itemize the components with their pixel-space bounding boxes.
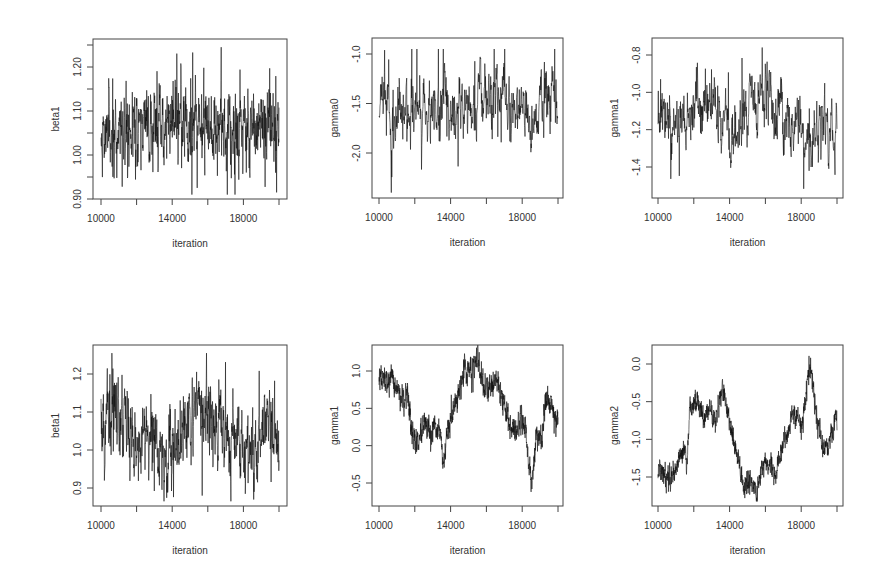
- y-tick-label: 0.5: [351, 401, 362, 415]
- y-tick-label: -1.5: [351, 94, 362, 112]
- trace-panel-top-right: 100001400018000-1.4-1.2-1.0-0.8iteration…: [609, 38, 843, 248]
- x-axis-label: iteration: [730, 545, 766, 556]
- trace-line: [101, 353, 279, 501]
- y-tick-label: -1.0: [351, 45, 362, 63]
- trace-panel-bottom-middle: 100001400018000-0.50.00.51.0iterationgam…: [329, 343, 563, 557]
- x-tick-label: 10000: [644, 520, 672, 531]
- y-axis-label: gamma1: [609, 98, 620, 137]
- x-axis-label: iteration: [730, 237, 766, 248]
- y-tick-label: 1.20: [72, 57, 83, 77]
- y-tick-label: -1.2: [631, 121, 642, 139]
- x-tick-label: 10000: [87, 520, 115, 531]
- y-tick-label: -0.5: [631, 393, 642, 411]
- y-tick-label: -0.8: [631, 46, 642, 64]
- y-tick-label: 1.0: [72, 443, 83, 457]
- y-tick-label: 0.9: [72, 481, 83, 495]
- trace-panel-top-left: 1000014000180000.901.001.101.20iteration…: [50, 39, 287, 249]
- x-axis-label: iteration: [450, 237, 486, 248]
- x-tick-label: 14000: [437, 520, 465, 531]
- x-tick-label: 14000: [716, 212, 744, 223]
- x-tick-label: 18000: [787, 212, 815, 223]
- x-tick-label: 10000: [365, 212, 393, 223]
- y-tick-label: -1.0: [631, 83, 642, 101]
- y-tick-label: -2.0: [351, 144, 362, 162]
- x-tick-label: 14000: [716, 520, 744, 531]
- y-tick-label: -1.0: [631, 430, 642, 448]
- x-axis-label: iteration: [172, 238, 208, 249]
- y-axis-label: beta1: [50, 413, 61, 438]
- x-axis-label: iteration: [172, 545, 208, 556]
- y-tick-label: 0.0: [351, 438, 362, 452]
- y-tick-label: 1.10: [72, 101, 83, 121]
- y-tick-label: -0.5: [351, 474, 362, 492]
- x-tick-label: 14000: [158, 520, 186, 531]
- x-tick-label: 10000: [365, 520, 393, 531]
- x-tick-label: 10000: [644, 212, 672, 223]
- trace-line: [101, 47, 279, 194]
- trace-panel-bottom-left: 1000014000180000.91.01.11.2iterationbeta…: [50, 345, 287, 556]
- y-tick-label: 0.90: [72, 189, 83, 209]
- trace-line: [658, 356, 837, 502]
- y-tick-label: 1.0: [351, 364, 362, 378]
- y-axis-label: beta1: [50, 106, 61, 131]
- y-tick-label: 1.00: [72, 145, 83, 165]
- x-tick-label: 18000: [508, 520, 536, 531]
- y-axis-label: gamma0: [329, 98, 340, 137]
- x-tick-label: 14000: [437, 212, 465, 223]
- x-tick-label: 18000: [508, 212, 536, 223]
- y-axis-label: gamma1: [329, 406, 340, 445]
- x-tick-label: 18000: [229, 213, 257, 224]
- trace-line: [379, 49, 558, 193]
- trace-panel-bottom-right: 100001400018000-1.5-1.0-0.50.0iterationg…: [609, 345, 843, 556]
- trace-panel-top-middle: 100001400018000-2.0-1.5-1.0iterationgamm…: [329, 38, 563, 248]
- y-axis-label: gamma2: [609, 406, 620, 445]
- x-axis-label: iteration: [450, 545, 486, 556]
- x-tick-label: 10000: [87, 213, 115, 224]
- x-tick-label: 18000: [229, 520, 257, 531]
- y-tick-label: 1.2: [72, 367, 83, 381]
- trace-line: [658, 48, 837, 189]
- x-tick-label: 18000: [787, 520, 815, 531]
- trace-line: [379, 343, 558, 492]
- y-tick-label: -1.4: [631, 158, 642, 176]
- y-tick-label: 0.0: [631, 357, 642, 371]
- x-tick-label: 14000: [158, 213, 186, 224]
- y-tick-label: 1.1: [72, 405, 83, 419]
- mcmc-trace-figure: 1000014000180000.901.001.101.20iteration…: [0, 0, 890, 576]
- y-tick-label: -1.5: [631, 468, 642, 486]
